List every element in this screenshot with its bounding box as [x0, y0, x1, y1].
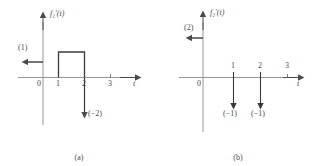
panel-caption-a: (a) — [0, 153, 158, 162]
origin-label-b: 0 — [197, 80, 201, 88]
y-axis-label-a: f₁′(t) — [50, 10, 64, 18]
x-tick-label-2-b: 2 — [258, 62, 262, 70]
x-tick-label-2-a: 2 — [82, 80, 86, 88]
origin-label-a: 0 — [37, 80, 41, 88]
x-axis-label-a: t — [133, 80, 135, 88]
x-tick-label-1-a: 1 — [56, 80, 60, 88]
figure-root: f₁′(t) t 0 (1) 1 2 3 (−2) (a) — [0, 0, 317, 166]
impulse-label-1-b: (−1) — [223, 110, 237, 118]
x-tick-label-1-b: 1 — [231, 62, 235, 70]
y-axis-label-b: f₂′(t) — [210, 9, 224, 17]
impulse-label-a: (−2) — [88, 110, 102, 118]
chart-panel-b: f₂′(t) t 0 (2) 1 2 3 (−1) (−1) (b) — [159, 0, 317, 166]
chart-panel-a: f₁′(t) t 0 (1) 1 2 3 (−2) (a) — [0, 0, 158, 166]
panel-caption-b: (b) — [159, 153, 317, 162]
x-axis-label-b: t — [297, 80, 299, 88]
amplitude-label-b: (2) — [184, 24, 193, 32]
impulse-label-2-b: (−1) — [251, 110, 265, 118]
pulse-waveform-a — [59, 52, 85, 78]
x-tick-label-3-a: 3 — [108, 80, 112, 88]
chart-a-canvas — [0, 0, 158, 140]
chart-b-canvas — [159, 0, 317, 140]
amplitude-label-a: (1) — [18, 44, 27, 52]
x-tick-label-3-b: 3 — [285, 62, 289, 70]
